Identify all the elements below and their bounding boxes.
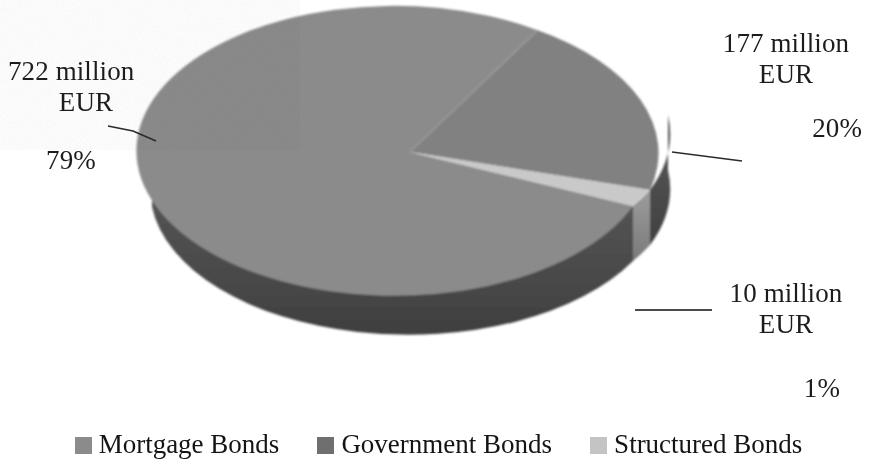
callout-structured-percent: 1% (700, 373, 872, 404)
callout-government-amount-line1: 177 million (700, 28, 872, 59)
chart-legend: Mortgage Bonds Government Bonds Structur… (0, 424, 877, 464)
legend-label-government: Government Bonds (341, 431, 552, 458)
legend-item-structured-bonds[interactable]: Structured Bonds (590, 431, 802, 458)
callout-structured-amount-line1: 10 million (700, 278, 872, 309)
legend-item-government-bonds[interactable]: Government Bonds (317, 431, 552, 458)
legend-item-mortgage-bonds[interactable]: Mortgage Bonds (75, 431, 280, 458)
callout-mortgage-bonds: 722 million EUR 79% (8, 56, 168, 176)
legend-label-mortgage: Mortgage Bonds (99, 431, 280, 458)
legend-swatch-icon-mortgage (75, 437, 92, 454)
leader-line-government (672, 152, 742, 161)
callout-mortgage-amount-line2: EUR (8, 87, 168, 118)
callout-structured-bonds: 10 million EUR 1% (700, 278, 872, 404)
callout-government-amount-line2: EUR (700, 59, 872, 90)
legend-swatch-icon-structured (590, 437, 607, 454)
legend-label-structured: Structured Bonds (614, 431, 802, 458)
callout-government-percent: 20% (700, 113, 872, 144)
pie-chart-figure: 722 million EUR 79% 177 million EUR 20% … (0, 0, 877, 467)
callout-structured-amount-line2: EUR (700, 309, 872, 340)
callout-government-bonds: 177 million EUR 20% (700, 28, 872, 144)
legend-swatch-icon-government (317, 437, 334, 454)
callout-mortgage-percent: 79% (8, 145, 168, 176)
callout-mortgage-amount-line1: 722 million (8, 56, 168, 87)
